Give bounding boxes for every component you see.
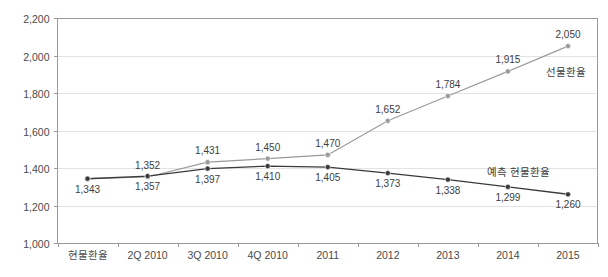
svg-text:1,343: 1,343 <box>75 184 100 195</box>
svg-text:2011: 2011 <box>316 249 339 261</box>
svg-text:1,373: 1,373 <box>375 178 400 189</box>
svg-text:1,470: 1,470 <box>315 138 340 149</box>
chart-plot-area: 1,0001,2001,4001,6001,8002,0002,200 현물환율… <box>0 0 608 277</box>
svg-text:2015: 2015 <box>556 249 580 261</box>
svg-text:1,915: 1,915 <box>495 54 520 65</box>
svg-text:2,000: 2,000 <box>23 51 49 63</box>
svg-text:1,338: 1,338 <box>435 185 460 196</box>
svg-text:1,450: 1,450 <box>255 142 280 153</box>
svg-text:1,397: 1,397 <box>195 174 220 185</box>
svg-text:1,000: 1,000 <box>23 238 49 250</box>
exchange-rate-line-chart: 1,0001,2001,4001,6001,8002,0002,200 현물환율… <box>0 0 608 277</box>
svg-text:3Q 2010: 3Q 2010 <box>187 249 227 261</box>
svg-text:2013: 2013 <box>436 249 460 261</box>
y-axis-tick-labels: 1,0001,2001,4001,6001,8002,0002,200 <box>23 13 49 250</box>
svg-text:1,299: 1,299 <box>495 192 520 203</box>
series-annotation-forward-rate: 선물환율 <box>546 66 586 78</box>
y-axis-tick-marks <box>54 19 58 244</box>
svg-text:1,652: 1,652 <box>375 104 400 115</box>
svg-text:2,200: 2,200 <box>23 13 49 25</box>
svg-text:1,410: 1,410 <box>255 171 280 182</box>
svg-text:1,260: 1,260 <box>555 199 580 210</box>
svg-text:1,400: 1,400 <box>23 163 49 175</box>
svg-text:1,600: 1,600 <box>23 126 49 138</box>
svg-text:현물환율: 현물환율 <box>68 249 108 261</box>
svg-text:2Q 2010: 2Q 2010 <box>127 249 167 261</box>
svg-text:1,431: 1,431 <box>195 145 220 156</box>
x-axis-tick-labels: 현물환율2Q 20103Q 20104Q 2010201120122013201… <box>68 249 580 261</box>
svg-text:4Q 2010: 4Q 2010 <box>248 249 288 261</box>
svg-text:1,800: 1,800 <box>23 88 49 100</box>
series-line-forward-rate <box>88 46 569 179</box>
svg-text:1,784: 1,784 <box>435 79 460 90</box>
svg-text:2012: 2012 <box>376 249 400 261</box>
svg-text:2014: 2014 <box>496 249 520 261</box>
svg-text:1,352: 1,352 <box>135 160 160 171</box>
series-annotation-spot-rate: 예측 현물환율 <box>487 166 550 178</box>
svg-text:2,050: 2,050 <box>555 29 580 40</box>
svg-text:1,200: 1,200 <box>23 201 49 213</box>
svg-text:1,357: 1,357 <box>135 181 160 192</box>
svg-text:1,405: 1,405 <box>315 172 340 183</box>
